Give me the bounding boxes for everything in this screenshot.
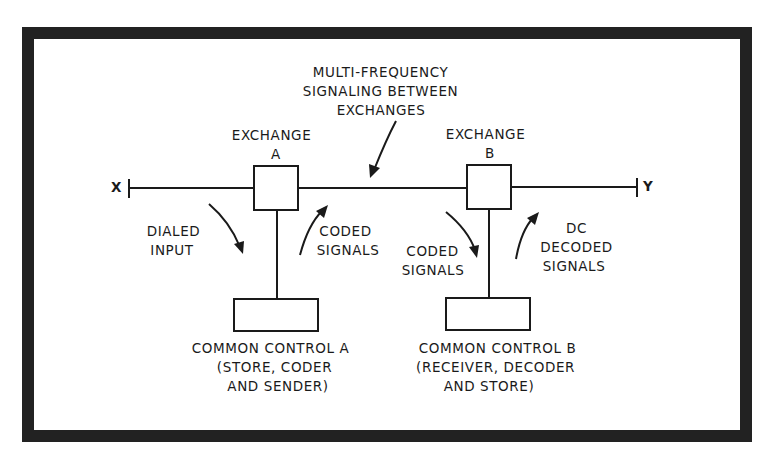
multi-frequency-label: MULTI-FREQUENCY SIGNALING BETWEEN EXCHAN…: [303, 64, 463, 118]
endpoint-y-label: Y: [642, 178, 653, 194]
dc-decoded-signals-label: DC DECODED SIGNALS: [540, 220, 617, 274]
exchange-a-box: [254, 166, 298, 210]
dialed-input-arrow: [209, 204, 244, 254]
exchange-a-label: EXCHANGE A: [232, 127, 316, 162]
dc-decoded-signals-arrow: [516, 212, 539, 259]
coded-signals-a-label: CODED SIGNALS: [317, 223, 380, 258]
common-control-b-box: [446, 298, 530, 330]
exchange-b-label: EXCHANGE B: [446, 126, 530, 161]
common-control-b-label: COMMON CONTROL B (RECEIVER, DECODER AND …: [416, 340, 581, 394]
dialed-input-label: DIALED INPUT: [147, 223, 206, 258]
endpoint-x-label: X: [111, 179, 122, 195]
common-control-a-label: COMMON CONTROL A (STORE, CODER AND SENDE…: [192, 340, 354, 394]
coded-signals-b-label: CODED SIGNALS: [402, 243, 465, 278]
multi-frequency-arrow: [369, 121, 396, 178]
common-control-a-box: [234, 299, 318, 331]
multi-frequency-signaling-diagram: X Y EXCHANGE A EXCHANGE B MULTI-FREQUENC…: [0, 0, 773, 457]
exchange-b-box: [467, 165, 511, 209]
